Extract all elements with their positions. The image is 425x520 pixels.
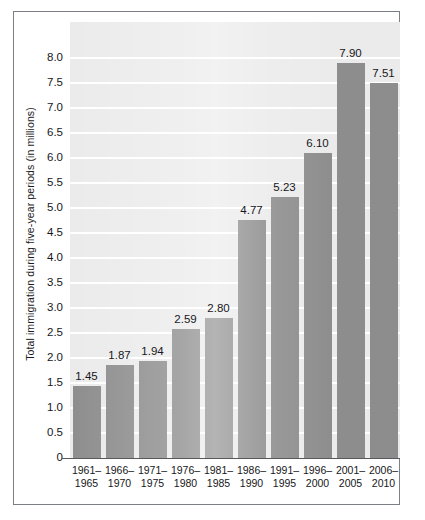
bar[interactable]	[106, 365, 134, 459]
y-tick-label: 1.5	[23, 376, 63, 388]
bar[interactable]	[73, 386, 101, 459]
y-tick-label: 8.0	[23, 51, 63, 63]
bar[interactable]	[304, 153, 332, 458]
y-tick-label: 6.0	[23, 151, 63, 163]
y-tick-label: 2.5	[23, 326, 63, 338]
bar-value-label: 6.10	[295, 137, 341, 149]
bar-value-label: 5.23	[262, 181, 308, 193]
bar-value-label: 2.59	[163, 313, 209, 325]
bar-value-label: 4.77	[229, 204, 275, 216]
bar-value-label: 7.90	[328, 47, 374, 59]
y-tick-label: 7.0	[23, 101, 63, 113]
bar-value-label: 7.51	[361, 67, 407, 79]
bar[interactable]	[370, 83, 398, 459]
y-tick-label: 3.5	[23, 276, 63, 288]
chart-figure: Total immigration during five-year perio…	[0, 0, 425, 520]
y-tick-label: 5.5	[23, 176, 63, 188]
y-tick-label: 0.5	[23, 426, 63, 438]
y-tick-label: 3.0	[23, 301, 63, 313]
x-tick-label: 2006–2010	[361, 464, 407, 490]
y-tick-label: 0	[23, 451, 63, 463]
bar[interactable]	[139, 361, 167, 458]
plot-area	[70, 22, 400, 458]
y-tick-label: 5.0	[23, 201, 63, 213]
x-axis-line	[62, 458, 400, 459]
x-tick-line: 2006–	[361, 464, 407, 477]
bar[interactable]	[205, 318, 233, 458]
bar[interactable]	[172, 329, 200, 459]
bar-value-label: 1.45	[64, 370, 110, 382]
bar[interactable]	[238, 220, 266, 459]
y-tick-label: 2.0	[23, 351, 63, 363]
bar[interactable]	[337, 63, 365, 458]
y-tick-label: 6.5	[23, 126, 63, 138]
y-tick-label: 1.0	[23, 401, 63, 413]
x-tick-line: 2010	[361, 477, 407, 490]
bar[interactable]	[271, 197, 299, 459]
bar-value-label: 1.94	[130, 345, 176, 357]
y-tick-label: 4.0	[23, 251, 63, 263]
bar-value-label: 2.80	[196, 302, 242, 314]
y-tick-label: 4.5	[23, 226, 63, 238]
y-tick-label: 7.5	[23, 76, 63, 88]
